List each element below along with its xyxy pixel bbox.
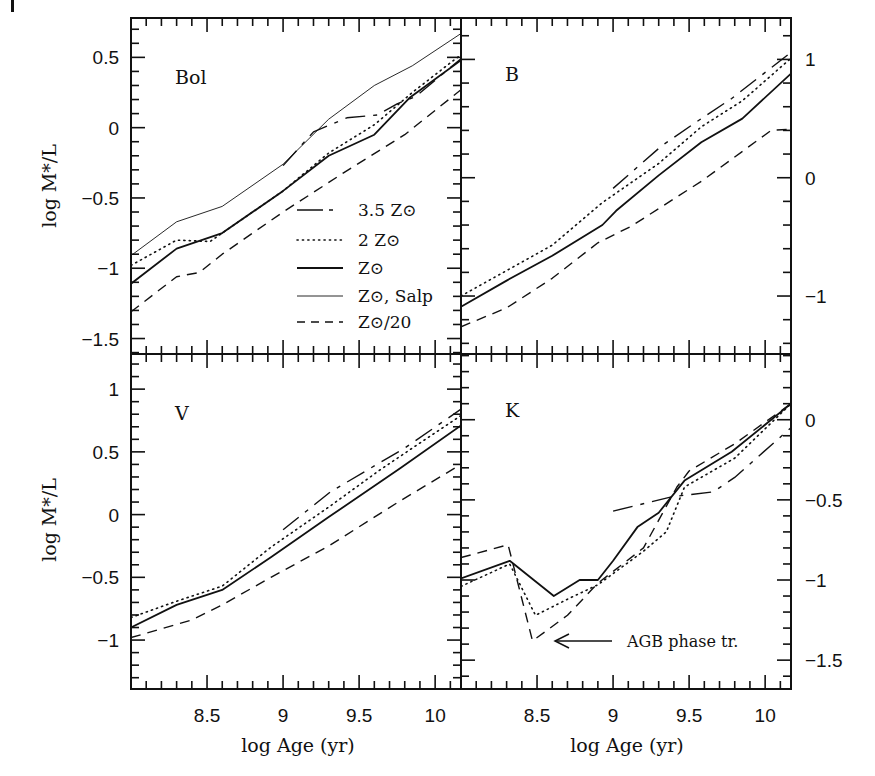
y-tick-label: −1 (805, 570, 827, 591)
x-tick-label: 9 (608, 705, 619, 726)
y-axis-label-top: log M*/L (38, 144, 60, 228)
x-tick-label: 10 (755, 705, 776, 726)
x-axis-label-left: log Age (yr) (241, 734, 355, 756)
figure: −1.5−1−0.500.5Bol−101B−1−0.500.518.599.5… (0, 0, 875, 776)
legend-label: Z⊙ (358, 258, 384, 278)
annotation-text: AGB phase tr. (626, 632, 738, 651)
artifact-mark (11, 0, 14, 12)
y-tick-label: −0.5 (81, 567, 119, 588)
legend-label: Z⊙, Salp (358, 286, 433, 306)
legend-label: Z⊙/20 (358, 312, 411, 332)
x-tick-label: 8.5 (524, 705, 550, 726)
legend-label: 2 Z⊙ (358, 230, 400, 250)
x-tick-label: 9 (278, 705, 289, 726)
y-tick-label: −1.5 (805, 650, 843, 671)
y-tick-label: −1 (97, 630, 119, 651)
y-tick-label: 0 (108, 118, 119, 139)
x-tick-label: 10 (425, 705, 446, 726)
legend-label: 3.5 Z⊙ (358, 200, 417, 220)
x-tick-label: 8.5 (194, 705, 220, 726)
y-tick-label: 0 (805, 410, 816, 431)
x-axis-label-right: log Age (yr) (570, 734, 684, 756)
y-tick-label: 0 (805, 168, 816, 189)
panel-label: K (505, 399, 520, 421)
x-tick-label: 9.5 (346, 705, 372, 726)
panel-label: V (174, 402, 189, 424)
panel-label: Bol (175, 66, 206, 88)
y-tick-label: 0.5 (93, 442, 119, 463)
y-axis-label-bottom: log M*/L (38, 478, 60, 562)
y-tick-label: −1 (805, 286, 827, 307)
y-tick-label: −1 (97, 258, 119, 279)
y-tick-label: 0 (108, 505, 119, 526)
y-tick-label: −1.5 (81, 329, 119, 350)
y-tick-label: −0.5 (805, 490, 843, 511)
x-tick-label: 9.5 (676, 705, 702, 726)
y-tick-label: −0.5 (81, 188, 119, 209)
y-tick-label: 0.5 (93, 47, 119, 68)
y-tick-label: 1 (805, 49, 816, 70)
y-tick-label: 1 (108, 379, 119, 400)
panel-label: B (505, 63, 519, 85)
